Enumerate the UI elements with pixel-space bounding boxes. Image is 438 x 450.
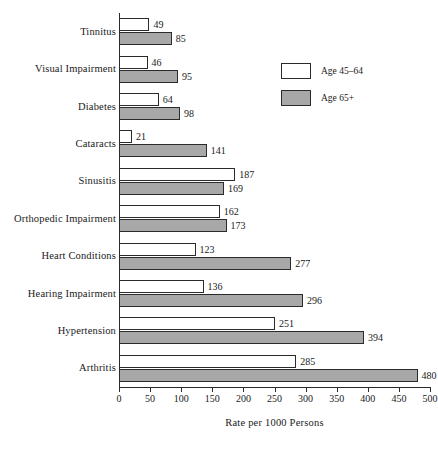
category-label: Hearing Impairment: [4, 289, 116, 300]
bar-group: 285480: [119, 350, 430, 387]
category-label: Tinnitus: [4, 27, 116, 38]
bar: [119, 130, 132, 143]
bar: [119, 144, 207, 157]
x-axis-tick: [306, 387, 307, 392]
bar-value-label: 480: [422, 371, 437, 381]
bar-value-label: 285: [300, 357, 315, 367]
x-axis-tick-label: 50: [145, 394, 155, 404]
bar-value-label: 173: [231, 221, 246, 231]
x-axis-tick: [430, 387, 431, 392]
x-axis-tick: [119, 387, 120, 392]
bar: [119, 32, 172, 45]
bar-value-label: 64: [163, 95, 173, 105]
category-label: Diabetes: [4, 102, 116, 113]
bar: [119, 355, 296, 368]
category-label: Arthritis: [4, 363, 116, 374]
bar-group: 4695: [119, 50, 430, 87]
x-axis-tick: [399, 387, 400, 392]
x-axis-tick-label: 300: [298, 394, 313, 404]
bar: [119, 219, 227, 232]
bar: [119, 257, 291, 270]
category-label: Sinusitis: [4, 176, 116, 187]
bar-value-label: 49: [153, 20, 163, 30]
bar-group: 187169: [119, 163, 430, 200]
x-axis-title: Rate per 1000 Persons: [119, 417, 430, 428]
bar: [119, 243, 196, 256]
bar-value-label: 251: [279, 319, 294, 329]
x-axis-tick-label: 100: [174, 394, 189, 404]
bar: [119, 205, 220, 218]
x-axis-tick-label: 450: [391, 394, 406, 404]
plot-area: 4985469564982114118716916217312327713629…: [119, 13, 430, 387]
category-label: Heart Conditions: [4, 251, 116, 262]
bar-value-label: 95: [182, 72, 192, 82]
legend-label-age-45-64: Age 45–64: [321, 67, 363, 77]
x-axis-tick: [243, 387, 244, 392]
x-axis-tick: [181, 387, 182, 392]
bar-group: 4985: [119, 13, 430, 50]
bar: [119, 70, 178, 83]
x-axis-tick: [275, 387, 276, 392]
bar: [119, 168, 235, 181]
bar: [119, 294, 303, 307]
category-label: Hypertension: [4, 326, 116, 337]
bar-group: 21141: [119, 125, 430, 162]
bar: [119, 369, 418, 382]
category-label: Cataracts: [4, 139, 116, 150]
bar-value-label: 162: [224, 207, 239, 217]
bar-group: 251394: [119, 312, 430, 349]
bar-value-label: 169: [228, 184, 243, 194]
legend-label-age-65-plus: Age 65+: [321, 94, 354, 104]
x-axis-tick-label: 250: [267, 394, 282, 404]
bar-group: 162173: [119, 200, 430, 237]
x-axis-tick-label: 350: [329, 394, 344, 404]
legend-swatch-age-65-plus: [281, 90, 311, 106]
bar: [119, 182, 224, 195]
bar: [119, 317, 275, 330]
bar: [119, 56, 148, 69]
bar-value-label: 98: [184, 109, 194, 119]
bar-value-label: 187: [239, 170, 254, 180]
bar: [119, 280, 204, 293]
bar-value-label: 394: [368, 333, 383, 343]
y-axis-line: [119, 13, 120, 388]
bar-group: 136296: [119, 275, 430, 312]
bar: [119, 93, 159, 106]
bar: [119, 18, 149, 31]
x-axis-tick-label: 150: [205, 394, 220, 404]
x-axis-tick-label: 0: [117, 394, 122, 404]
bar-value-label: 21: [136, 132, 146, 142]
bar-value-label: 136: [208, 282, 223, 292]
bar-value-label: 141: [211, 146, 226, 156]
legend-swatch-age-45-64: [281, 63, 311, 79]
x-axis-tick: [150, 387, 151, 392]
category-label: Orthopedic Impairment: [4, 214, 116, 225]
bar: [119, 107, 180, 120]
bar-value-label: 46: [152, 58, 162, 68]
bar: [119, 331, 364, 344]
category-label: Visual Impairment: [4, 64, 116, 75]
bar-value-label: 296: [307, 296, 322, 306]
bar-group: 123277: [119, 237, 430, 274]
bar-group: 6498: [119, 88, 430, 125]
x-axis-tick: [368, 387, 369, 392]
x-axis-tick: [212, 387, 213, 392]
bar-value-label: 85: [176, 34, 186, 44]
bar-value-label: 277: [295, 259, 310, 269]
x-axis-tick-label: 400: [360, 394, 375, 404]
bar-value-label: 123: [200, 245, 215, 255]
x-axis-tick: [337, 387, 338, 392]
x-axis-tick-label: 500: [423, 394, 438, 404]
x-axis-tick-label: 200: [236, 394, 251, 404]
